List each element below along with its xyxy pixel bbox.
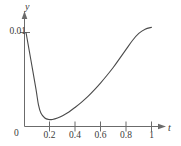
x-axis-label: t [168, 123, 171, 133]
x-tick-label-1: 1 [149, 131, 154, 141]
x-tick-label-0.6: 0.6 [95, 131, 107, 141]
x-tick-label-0.4: 0.4 [69, 131, 81, 141]
plot-figure: y t 0 0.01 0.2 0.4 0.6 0.8 1 [0, 0, 181, 146]
data-curve [26, 27, 151, 119]
x-tick-label-0.8: 0.8 [120, 131, 132, 141]
x-axis-arrow-icon [158, 124, 166, 130]
y-axis-label: y [25, 2, 29, 12]
y-tick-label-0.01: 0.01 [0, 27, 26, 37]
y-axis-arrow-icon [22, 11, 28, 19]
plot-canvas [0, 0, 181, 146]
origin-label: 0 [14, 129, 19, 139]
x-tick-label-0.2: 0.2 [44, 131, 56, 141]
